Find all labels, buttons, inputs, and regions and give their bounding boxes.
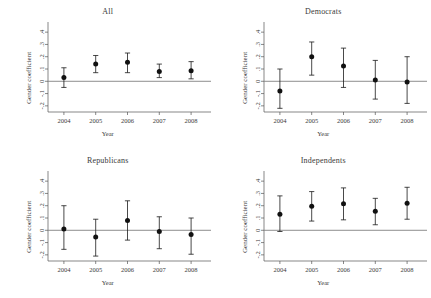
y-tick-label: -.2 (38, 102, 45, 109)
data-point (341, 201, 346, 206)
x-tick-label: 2007 (153, 117, 167, 124)
y-tick-label: .1 (254, 67, 261, 72)
y-tick-label: .1 (254, 216, 261, 221)
plot-area: -.2-.10.1.2.3.420042005200620072008 (0, 0, 216, 149)
data-point (93, 62, 98, 67)
data-point (125, 218, 130, 223)
y-tick-label: .3 (254, 42, 261, 47)
y-tick-label: .1 (38, 67, 45, 72)
y-tick-label: .2 (254, 54, 261, 59)
x-tick-label: 2005 (89, 117, 102, 124)
y-tick-label: -.1 (254, 90, 261, 97)
y-tick-label: .4 (38, 178, 45, 184)
panel-all: All Gender coefficient Year -.2-.10.1.2.… (0, 0, 216, 149)
x-tick-label: 2008 (185, 117, 198, 124)
data-point (157, 229, 162, 234)
y-tick-label: .2 (38, 203, 45, 208)
y-tick-label: 0 (254, 80, 261, 83)
x-tick-label: 2008 (185, 266, 198, 273)
plot-area: -.2-.10.1.2.3.420042005200620072008 (216, 0, 431, 149)
data-point (309, 204, 314, 209)
y-tick-label: -.1 (38, 239, 45, 246)
y-tick-label: .2 (38, 54, 45, 59)
y-tick-label: 0 (254, 229, 261, 232)
data-point (61, 227, 66, 232)
x-tick-label: 2006 (337, 117, 351, 124)
x-tick-label: 2008 (400, 266, 413, 273)
data-point (372, 78, 377, 83)
y-tick-label: .3 (254, 191, 261, 196)
y-tick-label: 0 (38, 80, 45, 83)
data-point (341, 63, 346, 68)
data-point (404, 79, 409, 84)
x-tick-label: 2007 (368, 117, 382, 124)
data-point (404, 201, 409, 206)
data-point (309, 54, 314, 59)
y-tick-label: .1 (38, 216, 45, 221)
y-tick-label: -.1 (38, 90, 45, 97)
y-tick-label: -.2 (254, 102, 261, 109)
y-tick-label: -.2 (254, 251, 261, 258)
x-tick-label: 2007 (368, 266, 382, 273)
y-tick-label: .4 (254, 178, 261, 184)
data-point (61, 75, 66, 80)
x-tick-label: 2005 (305, 117, 318, 124)
y-tick-label: -.1 (254, 239, 261, 246)
x-tick-label: 2004 (273, 117, 287, 124)
x-tick-label: 2005 (89, 266, 102, 273)
y-tick-label: .2 (254, 203, 261, 208)
y-tick-label: .3 (38, 42, 45, 47)
plot-area: -.2-.10.1.2.3.420042005200620072008 (0, 149, 216, 298)
x-tick-label: 2005 (305, 266, 318, 273)
y-tick-label: .4 (38, 29, 45, 35)
y-tick-label: .3 (38, 191, 45, 196)
data-point (125, 60, 130, 65)
y-tick-label: 0 (38, 229, 45, 232)
data-point (189, 68, 194, 73)
figure-grid: All Gender coefficient Year -.2-.10.1.2.… (0, 0, 431, 298)
data-point (93, 235, 98, 240)
x-tick-label: 2008 (400, 117, 413, 124)
data-point (372, 209, 377, 214)
panel-independents: Independents Gender coefficient Year -.2… (216, 149, 431, 298)
x-tick-label: 2004 (273, 266, 287, 273)
data-point (277, 89, 282, 94)
data-point (277, 212, 282, 217)
x-tick-label: 2004 (57, 117, 71, 124)
x-tick-label: 2006 (121, 117, 135, 124)
x-tick-label: 2007 (153, 266, 167, 273)
x-tick-label: 2006 (121, 266, 135, 273)
plot-area: -.2-.10.1.2.3.420042005200620072008 (216, 149, 431, 298)
x-tick-label: 2004 (57, 266, 71, 273)
data-point (157, 69, 162, 74)
panel-republicans: Republicans Gender coefficient Year -.2-… (0, 149, 216, 298)
y-tick-label: -.2 (38, 251, 45, 258)
y-tick-label: .4 (254, 29, 261, 35)
panel-democrats: Democrats Gender coefficient Year -.2-.1… (216, 0, 431, 149)
data-point (189, 232, 194, 237)
x-tick-label: 2006 (337, 266, 351, 273)
